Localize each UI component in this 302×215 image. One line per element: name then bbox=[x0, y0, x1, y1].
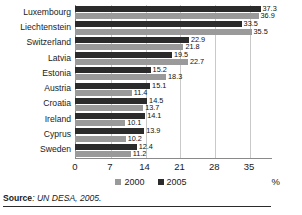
x-tick-35: 35 bbox=[244, 161, 255, 172]
axis-unit-label: % bbox=[272, 176, 280, 187]
legend-swatch-icon bbox=[115, 179, 121, 185]
x-tick-28: 28 bbox=[209, 161, 220, 172]
bar-row: 19.522.7 bbox=[0, 51, 302, 66]
bar-value-label: 15.2 bbox=[151, 67, 167, 74]
bar-value-label: 18.3 bbox=[166, 74, 182, 81]
legend-item-2000[interactable]: 2000 bbox=[115, 177, 144, 187]
bar-row: 15.218.3 bbox=[0, 66, 302, 81]
bar-row: 12.411.2 bbox=[0, 143, 302, 158]
bar-2000 bbox=[75, 29, 252, 35]
bar-value-label: 10.1 bbox=[125, 120, 141, 127]
bar-2005 bbox=[75, 67, 151, 73]
bar-row: 14.513.7 bbox=[0, 97, 302, 112]
bar-value-label: 19.5 bbox=[172, 51, 188, 58]
figure-container: Luxembourg37.336.9Liechtenstein33.535.5S… bbox=[0, 0, 302, 215]
legend-label: 2005 bbox=[167, 177, 187, 187]
chart-legend: 20002005 bbox=[0, 176, 302, 188]
bar-2000 bbox=[75, 44, 183, 50]
bar-2000 bbox=[75, 151, 131, 157]
x-axis-tick-labels: 0714212835 bbox=[0, 161, 302, 175]
bar-value-label: 11.2 bbox=[131, 150, 147, 157]
bar-2000 bbox=[75, 136, 126, 142]
bar-row: 15.111.4 bbox=[0, 82, 302, 97]
bar-2005 bbox=[75, 52, 172, 58]
x-tick-21: 21 bbox=[174, 161, 185, 172]
source-note: Source: UN DESA, 2005. bbox=[3, 193, 101, 203]
bar-2005 bbox=[75, 21, 242, 27]
bar-row: 22.921.8 bbox=[0, 36, 302, 51]
bar-2000 bbox=[75, 120, 125, 126]
source-citation: : UN DESA, 2005. bbox=[32, 193, 101, 203]
bar-2000 bbox=[75, 90, 132, 96]
x-tick-0: 0 bbox=[72, 161, 77, 172]
x-tick-14: 14 bbox=[139, 161, 150, 172]
bar-2000 bbox=[75, 59, 188, 65]
bar-2000 bbox=[75, 74, 166, 80]
bar-value-label: 11.4 bbox=[132, 89, 148, 96]
x-tick-7: 7 bbox=[107, 161, 112, 172]
bar-row: 37.336.9 bbox=[0, 5, 302, 20]
legend-item-2005[interactable]: 2005 bbox=[158, 177, 187, 187]
bar-value-label: 36.9 bbox=[259, 13, 275, 20]
bar-row: 14.110.1 bbox=[0, 112, 302, 127]
bar-2005 bbox=[75, 37, 189, 43]
source-label: Source bbox=[3, 193, 32, 203]
legend-swatch-icon bbox=[158, 179, 164, 185]
bar-2005 bbox=[75, 6, 261, 12]
bar-2000 bbox=[75, 13, 259, 19]
bar-row: 13.910.2 bbox=[0, 127, 302, 142]
bar-value-label: 14.1 bbox=[145, 112, 161, 119]
bar-row: 33.535.5 bbox=[0, 20, 302, 35]
bar-2000 bbox=[75, 105, 143, 111]
bar-value-label: 35.5 bbox=[252, 28, 268, 35]
bar-value-label: 13.9 bbox=[144, 128, 160, 135]
bottom-divider bbox=[3, 206, 271, 207]
bar-value-label: 15.1 bbox=[150, 82, 166, 89]
bar-value-label: 22.7 bbox=[188, 58, 204, 65]
legend-label: 2000 bbox=[124, 177, 144, 187]
bar-2005 bbox=[75, 98, 147, 104]
bar-2005 bbox=[75, 144, 137, 150]
